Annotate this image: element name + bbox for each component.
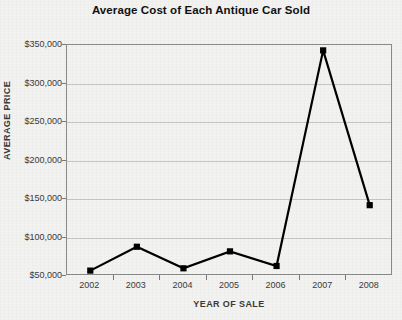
x-axis-tick-label: 2004 [172, 280, 192, 290]
data-point-marker [367, 202, 373, 208]
chart-title: Average Cost of Each Antique Car Sold [0, 4, 402, 16]
y-axis-tick-label: $250,000 [0, 116, 62, 126]
x-axis-tick-label: 2003 [126, 280, 146, 290]
y-axis-tick-label: $150,000 [0, 193, 62, 203]
data-point-marker [87, 268, 93, 274]
data-point-marker [320, 47, 326, 53]
x-axis-tick-label: 2002 [79, 280, 99, 290]
x-axis-tick-label: 2005 [219, 280, 239, 290]
x-axis-tick-label: 2006 [266, 280, 286, 290]
x-axis-title: YEAR OF SALE [66, 299, 392, 309]
data-series-layer [67, 45, 393, 276]
y-axis-tick-label: $200,000 [0, 155, 62, 165]
y-axis-tick-mark [62, 275, 66, 276]
y-axis-tick-label: $350,000 [0, 39, 62, 49]
x-axis-tick-mark [113, 275, 114, 280]
x-axis-tick-label: 2008 [359, 280, 379, 290]
data-line-average-price [90, 50, 369, 270]
data-point-markers [87, 47, 373, 273]
data-point-marker [134, 244, 140, 250]
y-axis-tick-label: $50,000 [0, 270, 62, 280]
x-axis-tick-label: 2007 [312, 280, 332, 290]
data-point-marker [227, 248, 233, 254]
x-axis-tick-mark [206, 275, 207, 280]
y-axis-tick-label: $300,000 [0, 78, 62, 88]
plot-area [66, 44, 392, 275]
x-axis-tick-mark [299, 275, 300, 280]
x-axis-tick-mark [345, 275, 346, 280]
data-point-marker [180, 265, 186, 271]
data-point-marker [273, 263, 279, 269]
x-axis-tick-mark [252, 275, 253, 280]
y-axis-tick-label: $100,000 [0, 232, 62, 242]
x-axis-tick-mark [159, 275, 160, 280]
line-chart-figure: Average Cost of Each Antique Car Sold AV… [0, 0, 402, 320]
